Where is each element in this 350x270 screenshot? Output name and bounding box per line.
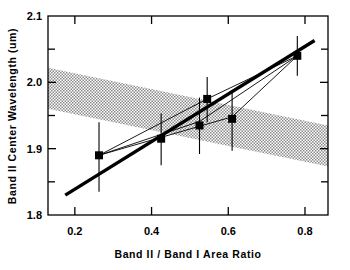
marker-square [95, 151, 103, 159]
x-tick-label: 0.2 [67, 225, 82, 237]
y-tick-label: 1.9 [27, 143, 42, 155]
scatter-plot: 0.20.40.60.8 1.81.92.02.1 Band II / Band… [0, 0, 350, 270]
x-axis-title: Band II / Band I Area Ratio [114, 248, 261, 260]
marker-square [203, 95, 211, 103]
y-tick-label: 2.1 [27, 10, 42, 22]
y-axis-title: Band II Center Wavelength (um) [6, 28, 18, 204]
marker-square [293, 52, 301, 60]
x-tick-label: 0.4 [144, 225, 160, 237]
x-tick-labels: 0.20.40.60.8 [67, 225, 312, 237]
marker-square [196, 121, 204, 129]
marker-square [157, 135, 165, 143]
x-tick-label: 0.8 [297, 225, 312, 237]
chart-figure: 0.20.40.60.8 1.81.92.02.1 Band II / Band… [0, 0, 350, 270]
x-tick-label: 0.6 [221, 225, 236, 237]
y-tick-label: 2.0 [27, 76, 42, 88]
marker-square [228, 115, 236, 123]
y-tick-label: 1.8 [27, 209, 42, 221]
y-tick-labels: 1.81.92.02.1 [27, 10, 42, 221]
